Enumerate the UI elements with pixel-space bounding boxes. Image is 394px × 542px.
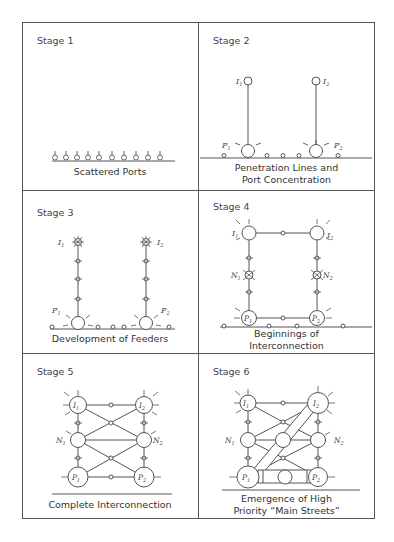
caption-line: Priority “Main Streets” <box>198 505 375 517</box>
stage-6-caption: Emergence of High Priority “Main Streets… <box>198 493 375 516</box>
caption-line: Emergence of High <box>198 493 375 505</box>
svg-text:N2: N2 <box>333 436 344 446</box>
stage-6-diagram: I1 I2 N1 N2 P1 P2 <box>0 0 394 542</box>
svg-text:N1: N1 <box>224 436 235 446</box>
